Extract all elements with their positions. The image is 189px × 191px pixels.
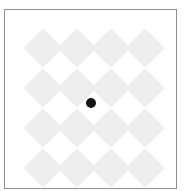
canvas-panel[interactable] [4,9,177,189]
screenshot-root [0,0,189,191]
diamond-tile [125,148,165,188]
canvas-surface[interactable] [5,10,176,188]
cursor-dot[interactable] [86,98,96,108]
diamond-tile [125,108,165,148]
diamond-tile [125,68,165,108]
diamond-tile [125,28,165,68]
